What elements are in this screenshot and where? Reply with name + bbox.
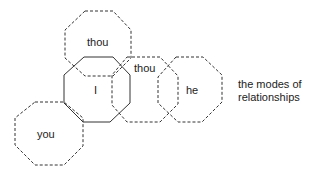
label-he: he (186, 84, 198, 96)
caption-line-1: the modes of (238, 78, 302, 91)
label-thou-top: thou (87, 36, 108, 48)
label-thou-right: thou (134, 62, 155, 74)
label-you: you (37, 128, 55, 140)
caption-line-2: relationships (238, 91, 302, 104)
diagram-caption: the modes of relationships (238, 78, 302, 104)
label-i: I (94, 84, 97, 96)
